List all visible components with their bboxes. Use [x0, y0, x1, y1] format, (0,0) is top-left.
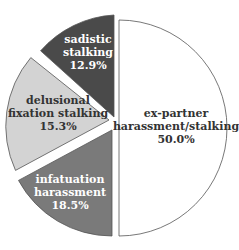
svg-text:15.3%: 15.3% — [39, 120, 77, 133]
svg-text:infatuation: infatuation — [36, 173, 105, 186]
svg-text:fixation stalking: fixation stalking — [8, 107, 108, 120]
label-sadistic: sadistic stalking 12.9% — [63, 33, 113, 72]
svg-text:harassment/stalking: harassment/stalking — [113, 120, 239, 133]
svg-text:50.0%: 50.0% — [157, 133, 195, 146]
svg-text:18.5%: 18.5% — [51, 199, 89, 212]
svg-text:ex-partner: ex-partner — [144, 107, 209, 120]
svg-text:harassment: harassment — [34, 186, 107, 199]
svg-text:12.9%: 12.9% — [69, 59, 107, 72]
svg-text:sadistic: sadistic — [64, 33, 112, 46]
svg-text:delusional: delusional — [26, 94, 90, 107]
svg-text:stalking: stalking — [63, 46, 113, 59]
pie-chart: ex-partner harassment/stalking 50.0% inf… — [0, 0, 239, 250]
